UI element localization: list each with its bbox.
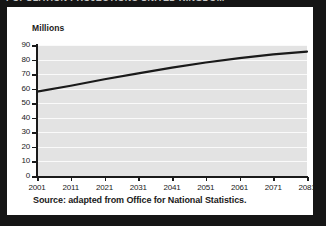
- chart-plot-wrapper: 0102030405060708090200120112021203120412…: [7, 7, 313, 215]
- y-axis-tick-label: 30: [12, 127, 30, 136]
- x-axis-tick: [206, 177, 208, 181]
- x-axis-tick: [273, 177, 275, 181]
- y-axis-tick: [32, 45, 36, 47]
- y-axis-tick-label-holder: 0: [7, 171, 30, 181]
- y-axis-tick-label: 20: [12, 142, 30, 151]
- y-axis-tick-label-holder: 40: [7, 113, 30, 123]
- y-axis-line: [36, 44, 38, 177]
- x-axis-tick: [240, 177, 242, 181]
- y-axis-tick: [32, 161, 36, 163]
- clipped-header-text: POPULATION PROJECTIONS UNITED KINGDOM: [6, 0, 224, 3]
- y-axis-tick: [32, 118, 36, 120]
- y-axis-tick-label: 50: [12, 98, 30, 107]
- y-axis-tick-label-holder: 70: [7, 69, 30, 79]
- gridline: [37, 60, 307, 61]
- gridline: [37, 89, 307, 90]
- y-axis-tick: [32, 60, 36, 62]
- x-axis-tick: [105, 177, 107, 181]
- gridline: [37, 132, 307, 133]
- y-axis-tick-label-holder: 10: [7, 156, 30, 166]
- y-axis-tick: [32, 147, 36, 149]
- y-axis-tick-label: 70: [12, 69, 30, 78]
- gridline: [37, 147, 307, 148]
- plot-area: [37, 45, 307, 176]
- y-axis-tick: [32, 132, 36, 134]
- x-axis-tick-label: 2081: [287, 183, 326, 192]
- x-axis-tick: [37, 177, 39, 181]
- clipped-header-strip: POPULATION PROJECTIONS UNITED KINGDOM: [0, 0, 326, 7]
- x-axis-tick: [307, 177, 309, 181]
- y-axis-tick-label-holder: 30: [7, 127, 30, 137]
- y-axis-tick-label-holder: 60: [7, 84, 30, 94]
- x-axis-tick: [172, 177, 174, 181]
- x-axis-tick: [71, 177, 73, 181]
- y-axis-tick: [32, 74, 36, 76]
- y-axis-tick-label-holder: 90: [7, 40, 30, 50]
- source-note: Source: adapted from Office for National…: [33, 195, 246, 205]
- gridline: [37, 103, 307, 104]
- gridline: [37, 118, 307, 119]
- y-axis-tick-label-holder: 80: [7, 55, 30, 65]
- y-axis-tick: [32, 103, 36, 105]
- y-axis-tick-label: 40: [12, 113, 30, 122]
- y-axis-tick-label: 0: [12, 171, 30, 180]
- y-axis-tick: [32, 89, 36, 91]
- y-axis-tick-label: 10: [12, 156, 30, 165]
- y-axis-tick-label: 60: [12, 84, 30, 93]
- x-axis-tick: [138, 177, 140, 181]
- y-axis-tick-label: 90: [12, 40, 30, 49]
- y-axis-tick: [32, 176, 36, 178]
- y-axis-tick-label-holder: 50: [7, 98, 30, 108]
- gridline: [37, 161, 307, 162]
- gridline: [37, 45, 307, 46]
- gridline: [37, 74, 307, 75]
- y-axis-tick-label: 80: [12, 55, 30, 64]
- figure-card: Millions 0102030405060708090200120112021…: [7, 7, 313, 215]
- y-axis-tick-label-holder: 20: [7, 142, 30, 152]
